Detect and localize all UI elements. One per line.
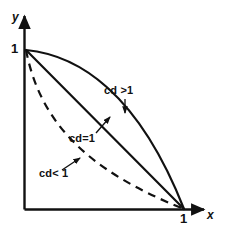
plot-canvas — [0, 0, 231, 234]
x-axis-tick-label-1: 1 — [180, 212, 187, 225]
indifference-curve-figure: y x 1 1 cd >1 cd=1 cd< 1 — [0, 0, 231, 234]
curve-label-cd-greater-than-one: cd >1 — [104, 85, 133, 96]
leader-cd-equal-one — [96, 117, 110, 133]
curve-cd-equal-one — [26, 50, 184, 209]
curve-label-cd-equal-one: cd=1 — [69, 133, 95, 144]
y-axis-tick-label-1: 1 — [11, 42, 18, 55]
y-axis-label: y — [12, 11, 19, 23]
curve-label-cd-less-than-one: cd< 1 — [39, 168, 68, 179]
x-axis-label: x — [207, 209, 214, 221]
